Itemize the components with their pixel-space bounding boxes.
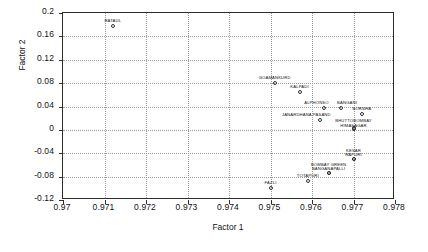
y-axis-tick-label: -0.08 (10, 170, 54, 180)
plot-area: RATAULGOAMANKURDKALPADIALPHONSOBANGANIBO… (62, 12, 394, 199)
y-axis-tick-label: 0.04 (10, 100, 54, 110)
data-point-label: JANARDHANA PASAND (282, 113, 331, 118)
y-axis-tick (59, 177, 63, 178)
data-point-label: TOTAPURI (297, 174, 319, 179)
y-gridline (63, 36, 393, 37)
y-axis-tick (59, 83, 63, 84)
y-axis-tick-label: -0.12 (10, 193, 54, 203)
data-point-marker (318, 118, 322, 122)
y-axis-tick (59, 36, 63, 37)
data-point-marker (269, 186, 273, 190)
y-axis-tick-label: 0.16 (10, 29, 54, 39)
x-gridline (105, 13, 106, 198)
x-axis-tick-label: 0.975 (250, 202, 290, 212)
x-axis-tick-label: 0.97 (42, 202, 82, 212)
y-axis-tick-label: 0.2 (10, 6, 54, 16)
y-axis-tick (59, 107, 63, 108)
data-point-label: BORSHA (353, 107, 372, 112)
data-point-label: ALPHONSO (304, 101, 328, 106)
data-point-label: BANGANAPALLI (312, 167, 345, 172)
y-gridline (63, 177, 393, 178)
data-point-label: GOAMANKURD (259, 76, 291, 81)
y-gridline (63, 153, 393, 154)
y-axis-tick (59, 60, 63, 61)
data-point-label: RATAUL (104, 19, 121, 24)
y-gridline (63, 130, 393, 131)
data-point-marker (111, 24, 115, 28)
y-gridline (63, 83, 393, 84)
x-axis-tick-label: 0.974 (208, 202, 248, 212)
x-axis-tick-label: 0.976 (291, 202, 331, 212)
x-axis-tick-label: 0.972 (125, 202, 165, 212)
y-gridline (63, 107, 393, 108)
x-axis-tick-label: 0.977 (333, 202, 373, 212)
y-axis-tick (59, 130, 63, 131)
x-gridline (229, 13, 230, 198)
data-point-label: RAPURI (345, 153, 362, 158)
data-point-marker (273, 81, 277, 85)
scatter-plot-figure: RATAULGOAMANKURDKALPADIALPHONSOBANGANIBO… (0, 0, 428, 252)
x-gridline (146, 13, 147, 198)
y-axis-tick (59, 200, 63, 201)
data-point-label: HIMASAGAR (340, 124, 366, 129)
x-gridline (271, 13, 272, 198)
y-gridline (63, 60, 393, 61)
x-axis-tick-label: 0.973 (167, 202, 207, 212)
x-axis-title: Factor 1 (62, 222, 394, 232)
data-point-label: BANGANI (337, 101, 357, 106)
data-point-label: KALPADI (290, 85, 308, 90)
y-axis-tick (59, 13, 63, 14)
y-axis-tick-label: 0.12 (10, 53, 54, 63)
x-gridline (188, 13, 189, 198)
y-axis-tick-label: -0.04 (10, 146, 54, 156)
x-axis-tick-label: 0.971 (84, 202, 124, 212)
data-point-marker (298, 90, 302, 94)
y-axis-tick-label: 0 (10, 123, 54, 133)
y-axis-tick-label: 0.08 (10, 76, 54, 86)
data-point-label: FAZLI (265, 181, 277, 186)
data-point-marker (322, 106, 326, 110)
data-point-marker (360, 112, 364, 116)
data-point-marker (306, 179, 310, 183)
x-axis-tick-label: 0.978 (374, 202, 414, 212)
y-axis-tick (59, 153, 63, 154)
data-point-marker (339, 106, 343, 110)
